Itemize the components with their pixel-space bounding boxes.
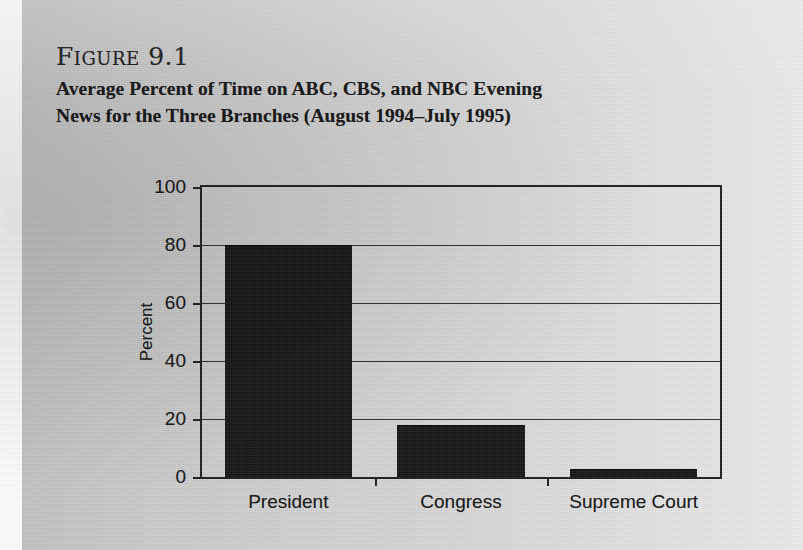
x-tick-label: President: [248, 491, 328, 513]
scanned-page: Figure 9.1 Average Percent of Time on AB…: [0, 0, 803, 550]
y-tick: [193, 245, 202, 247]
figure-number: Figure 9.1: [56, 44, 696, 70]
y-tick-label: 0: [175, 466, 186, 488]
bar: [225, 245, 352, 477]
x-tick: [375, 477, 377, 486]
plot-area: 020406080100 PresidentCongressSupreme Co…: [200, 185, 722, 479]
figure-title: Average Percent of Time on ABC, CBS, and…: [56, 76, 696, 130]
figure-title-line-2: News for the Three Branches (August 1994…: [56, 103, 696, 130]
y-axis-title: Percent: [137, 303, 157, 362]
y-tick-label: 100: [154, 176, 186, 198]
x-tick-label: Supreme Court: [569, 491, 698, 513]
y-tick: [193, 187, 202, 189]
bar: [397, 425, 524, 477]
y-tick-label: 80: [165, 234, 186, 256]
bar: [570, 469, 697, 477]
y-tick-label: 60: [165, 292, 186, 314]
bar-chart: Percent 020406080100 PresidentCongressSu…: [200, 185, 722, 479]
figure-caption: Figure 9.1 Average Percent of Time on AB…: [56, 44, 696, 130]
x-tick-label: Congress: [420, 491, 501, 513]
figure-title-line-1: Average Percent of Time on ABC, CBS, and…: [56, 76, 696, 103]
y-tick-label: 20: [165, 408, 186, 430]
y-tick: [193, 419, 202, 421]
y-tick-label: 40: [165, 350, 186, 372]
y-tick: [193, 361, 202, 363]
y-tick: [193, 303, 202, 305]
x-tick: [547, 477, 549, 486]
y-tick: [193, 477, 202, 479]
